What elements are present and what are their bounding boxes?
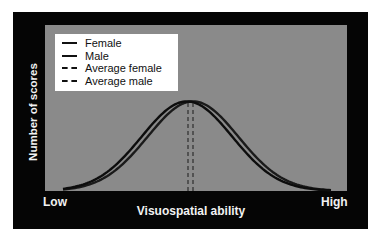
solid-line-icon [62, 42, 77, 44]
x-tick-low: Low [43, 195, 67, 209]
dashed-line-icon [62, 80, 77, 82]
solid-line-icon [62, 55, 77, 57]
legend: Female Male Average female Average male [55, 34, 178, 91]
legend-item-average-female: Average female [62, 62, 178, 75]
legend-label: Average male [85, 75, 153, 87]
x-tick-high: High [321, 195, 348, 209]
legend-label: Male [85, 50, 109, 62]
x-axis-label: Visuospatial ability [137, 204, 245, 218]
legend-item-female: Female [62, 37, 178, 50]
dashed-line-icon [62, 67, 77, 69]
legend-item-male: Male [62, 50, 178, 63]
legend-label: Female [85, 37, 122, 49]
male-curve [63, 101, 331, 190]
y-axis-label: Number of scores [27, 63, 39, 161]
legend-item-average-male: Average male [62, 75, 178, 88]
legend-label: Average female [85, 62, 162, 74]
